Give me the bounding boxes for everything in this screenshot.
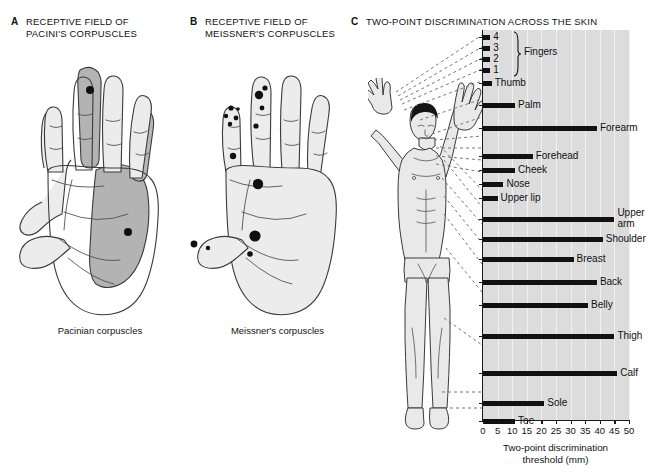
x-tick-label: 35 xyxy=(580,425,591,436)
two-point-discrimination-chart: 4321ThumbPalmForearmForeheadCheekNoseUpp… xyxy=(483,30,629,420)
bar xyxy=(483,154,533,159)
x-tick-mark xyxy=(541,421,542,424)
x-axis-title-line1: Two-point discrimination xyxy=(443,442,668,454)
bar-label: 3 xyxy=(493,42,499,53)
bar-row: Calf xyxy=(483,368,629,379)
bar xyxy=(483,371,617,376)
x-axis-title-line2: threshold (mm) xyxy=(443,454,668,466)
bar-row: Upper arm xyxy=(483,214,629,225)
x-axis-title: Two-point discrimination threshold (mm) xyxy=(443,442,668,466)
panel-b-letter: B xyxy=(190,16,197,27)
x-tick-label: 0 xyxy=(480,425,485,436)
bar-label: Cheek xyxy=(518,164,547,175)
panel-b-title: RECEPTIVE FIELD OF MEISSNER'S CORPUSCLES xyxy=(205,16,345,39)
bar-row: Thumb xyxy=(483,78,629,89)
bar-label: 1 xyxy=(493,64,499,75)
bar xyxy=(483,35,490,40)
bar xyxy=(483,401,544,406)
bar-label: Belly xyxy=(591,299,613,310)
x-tick-label: 5 xyxy=(495,425,500,436)
bar xyxy=(483,237,603,242)
x-tick-label: 15 xyxy=(522,425,533,436)
bar-label: Breast xyxy=(577,253,606,264)
x-tick-label: 30 xyxy=(565,425,576,436)
bar xyxy=(483,257,574,262)
x-tick-mark xyxy=(585,421,586,424)
x-tick-label: 40 xyxy=(595,425,606,436)
x-tick-mark xyxy=(498,421,499,424)
figure-root: A RECEPTIVE FIELD OF PACINI'S CORPUSCLES… xyxy=(0,0,670,474)
bar-row: Back xyxy=(483,277,629,288)
bar xyxy=(483,303,588,308)
panel-c-letter: C xyxy=(351,16,358,27)
panel-a-caption: Pacinian corpuscles xyxy=(20,325,180,336)
panel-a-title: RECEPTIVE FIELD OF PACINI'S CORPUSCLES xyxy=(26,16,146,39)
bar xyxy=(483,126,597,131)
bar-row: 4 xyxy=(483,32,629,43)
x-tick-mark xyxy=(483,421,484,424)
meissner-hand-illustration xyxy=(186,52,366,322)
bar-label: Palm xyxy=(518,99,541,110)
bar-row: Sole xyxy=(483,398,629,409)
x-tick-mark xyxy=(556,421,557,424)
bar xyxy=(483,81,492,86)
bar-row: Nose xyxy=(483,179,629,190)
x-tick-mark xyxy=(614,421,615,424)
bar xyxy=(483,168,515,173)
bar-label: Nose xyxy=(506,178,529,189)
panel-a-letter: A xyxy=(11,16,18,27)
pacinian-hand-illustration xyxy=(8,52,188,322)
bar-label: Thigh xyxy=(617,330,642,341)
bar-label: Forearm xyxy=(600,122,638,133)
bar-row: Cheek xyxy=(483,165,629,176)
bar-label: Upper lip xyxy=(501,192,541,203)
fingers-group-label: Fingers xyxy=(524,46,557,57)
bar-row: Thigh xyxy=(483,331,629,342)
bar-row: Forehead xyxy=(483,151,629,162)
human-body-illustration xyxy=(368,78,486,438)
bar xyxy=(483,57,490,62)
bar-row: Forearm xyxy=(483,123,629,134)
panel-b-caption: Meissner's corpuscles xyxy=(195,325,360,336)
bar xyxy=(483,182,503,187)
x-tick-label: 50 xyxy=(624,425,635,436)
x-tick-label: 20 xyxy=(536,425,547,436)
bar-label: Shoulder xyxy=(606,233,646,244)
x-tick-label: 10 xyxy=(507,425,518,436)
x-tick-mark xyxy=(629,421,630,424)
bar-row: Belly xyxy=(483,300,629,311)
bar-label: Upper arm xyxy=(617,208,655,229)
x-tick-label: 25 xyxy=(551,425,562,436)
x-tick-mark xyxy=(571,421,572,424)
bar xyxy=(483,217,614,222)
bar xyxy=(483,46,490,51)
panel-c-title: TWO-POINT DISCRIMINATION ACROSS THE SKIN xyxy=(366,16,656,28)
x-tick-mark xyxy=(527,421,528,424)
bar xyxy=(483,68,490,73)
bar-row: Shoulder xyxy=(483,234,629,245)
bar-label: Back xyxy=(600,276,622,287)
bar-row: Upper lip xyxy=(483,193,629,204)
bar xyxy=(483,334,614,339)
bar-label: Calf xyxy=(620,367,638,378)
bar-label: Forehead xyxy=(536,150,579,161)
fingers-brace xyxy=(513,31,522,77)
bar-row: Breast xyxy=(483,254,629,265)
bar-label: 2 xyxy=(493,53,499,64)
bar-label: Thumb xyxy=(495,77,526,88)
bar-row: Palm xyxy=(483,100,629,111)
x-tick-label: 45 xyxy=(609,425,620,436)
bar-label: Sole xyxy=(547,397,567,408)
x-tick-mark xyxy=(512,421,513,424)
bar xyxy=(483,196,498,201)
x-tick-mark xyxy=(600,421,601,424)
bar-row: 1 xyxy=(483,65,629,76)
bar xyxy=(483,103,515,108)
bar xyxy=(483,280,597,285)
bar-label: 4 xyxy=(493,31,499,42)
